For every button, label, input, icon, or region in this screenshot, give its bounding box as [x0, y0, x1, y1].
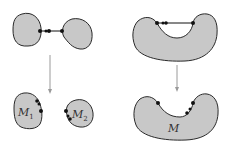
- left-bottom-panel: M1 M2: [14, 93, 93, 129]
- right-top-panel: [133, 14, 217, 61]
- marked-point: [38, 103, 41, 106]
- marked-point: [162, 22, 165, 25]
- right-bottom-panel: M: [134, 94, 218, 140]
- left-top-panel: [13, 13, 92, 49]
- left-blob-b: [63, 19, 93, 49]
- marked-point: [156, 101, 160, 105]
- marked-point: [185, 111, 189, 115]
- down-arrow-icon: [175, 65, 179, 92]
- u-shaped-blob: [133, 14, 217, 61]
- marked-point: [38, 29, 42, 33]
- marked-point: [60, 29, 64, 33]
- marked-point: [67, 115, 70, 118]
- marked-point: [39, 109, 43, 113]
- marked-point: [35, 99, 39, 103]
- marked-point: [191, 101, 195, 105]
- left-blob-a: [13, 13, 41, 46]
- label-m: M: [167, 122, 180, 135]
- marked-point: [164, 21, 168, 25]
- marked-point: [189, 108, 192, 111]
- marked-point: [64, 109, 68, 113]
- marked-point: [191, 21, 195, 25]
- down-arrow-icon: [48, 55, 52, 94]
- diagram-canvas: M1 M2 M: [0, 0, 230, 147]
- marked-point: [47, 29, 51, 33]
- marked-point: [155, 21, 159, 25]
